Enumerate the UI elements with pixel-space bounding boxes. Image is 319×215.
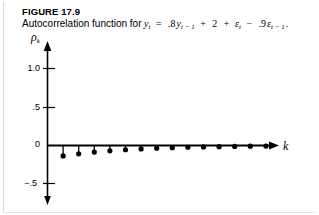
data-point-marker — [139, 146, 144, 151]
autocorrelation-plot: ρk k 1.0 .5 0 −.5 — [0, 0, 319, 215]
axes-group — [43, 41, 279, 205]
data-point-marker — [217, 144, 222, 149]
y-axis-arrow-up-icon — [44, 41, 52, 51]
data-point-marker — [185, 145, 190, 150]
data-point-marker — [170, 145, 175, 150]
data-point-marker — [76, 151, 81, 156]
y-axis-arrow-down-icon — [44, 196, 51, 205]
data-point-marker — [92, 150, 97, 155]
data-point-marker — [232, 144, 237, 149]
data-point-marker — [61, 153, 66, 158]
data-point-marker — [263, 143, 268, 148]
data-point-marker — [107, 148, 112, 153]
data-point-marker — [201, 144, 206, 149]
x-axis-arrow-right-icon — [269, 142, 279, 150]
plot-canvas — [0, 0, 319, 215]
data-point-marker — [248, 144, 253, 149]
data-point-marker — [154, 146, 159, 151]
figure-container: FIGURE 17.9 Autocorrelation function for… — [0, 0, 319, 215]
data-point-marker — [123, 147, 128, 152]
